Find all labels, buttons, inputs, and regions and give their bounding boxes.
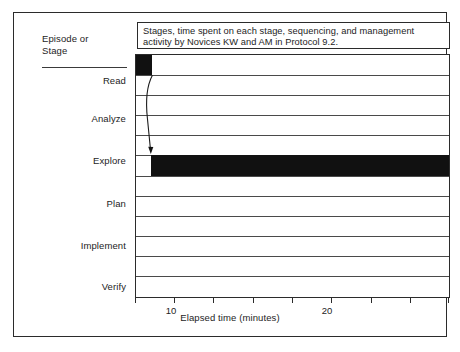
gridline	[136, 236, 449, 237]
stage-label-implement: Implement	[81, 240, 126, 251]
stage-column-title: Episode or Stage	[42, 33, 130, 56]
gridline	[136, 196, 449, 197]
caption-text: Stages, time spent on each stage, sequen…	[143, 26, 443, 49]
stage-label-read: Read	[103, 75, 126, 86]
stage-label-column: Episode or Stage Read Analyze Explore Pl…	[28, 26, 130, 326]
gridline	[136, 176, 449, 177]
x-axis-ticks	[135, 298, 450, 305]
stage-label-analyze: Analyze	[92, 113, 127, 124]
gridline	[136, 135, 449, 136]
stage-header-divider	[42, 67, 127, 68]
gridline	[136, 256, 449, 257]
gridline	[136, 115, 449, 116]
stage-label-verify: Verify	[102, 281, 126, 292]
x-tick-15	[371, 298, 372, 303]
figure-frame: Episode or Stage Read Analyze Explore Pl…	[13, 12, 447, 337]
x-tick-0	[135, 298, 136, 303]
x-tick-5	[213, 298, 214, 303]
stage-label-explore: Explore	[93, 155, 126, 166]
plot-area	[135, 54, 450, 298]
gridline	[136, 276, 449, 277]
x-tick-2-5	[174, 298, 175, 303]
bar-explore	[151, 155, 449, 176]
x-axis-title: Elapsed time (minutes)	[0, 312, 460, 323]
gridline	[136, 75, 449, 76]
x-tick-10	[292, 298, 293, 303]
x-tick-7-5	[253, 298, 254, 303]
x-tick-12-5	[331, 298, 332, 303]
stage-label-plan: Plan	[107, 198, 126, 209]
bar-read	[136, 55, 152, 75]
x-tick-17-5	[410, 298, 411, 303]
caption-box: Stages, time spent on each stage, sequen…	[137, 22, 450, 49]
x-tick-20	[448, 298, 449, 303]
gridline	[136, 216, 449, 217]
gridline	[136, 95, 449, 96]
